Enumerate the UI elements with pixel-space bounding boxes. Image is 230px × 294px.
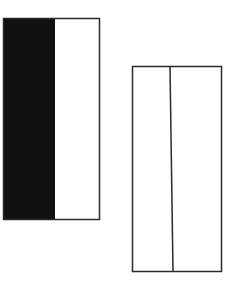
right-rectangle-outline <box>133 67 222 272</box>
left-rectangle <box>3 18 100 220</box>
right-rectangle-divider <box>170 66 173 272</box>
right-rectangle <box>133 66 222 272</box>
diagram-canvas <box>0 0 230 294</box>
left-rectangle-black-half <box>3 18 55 220</box>
